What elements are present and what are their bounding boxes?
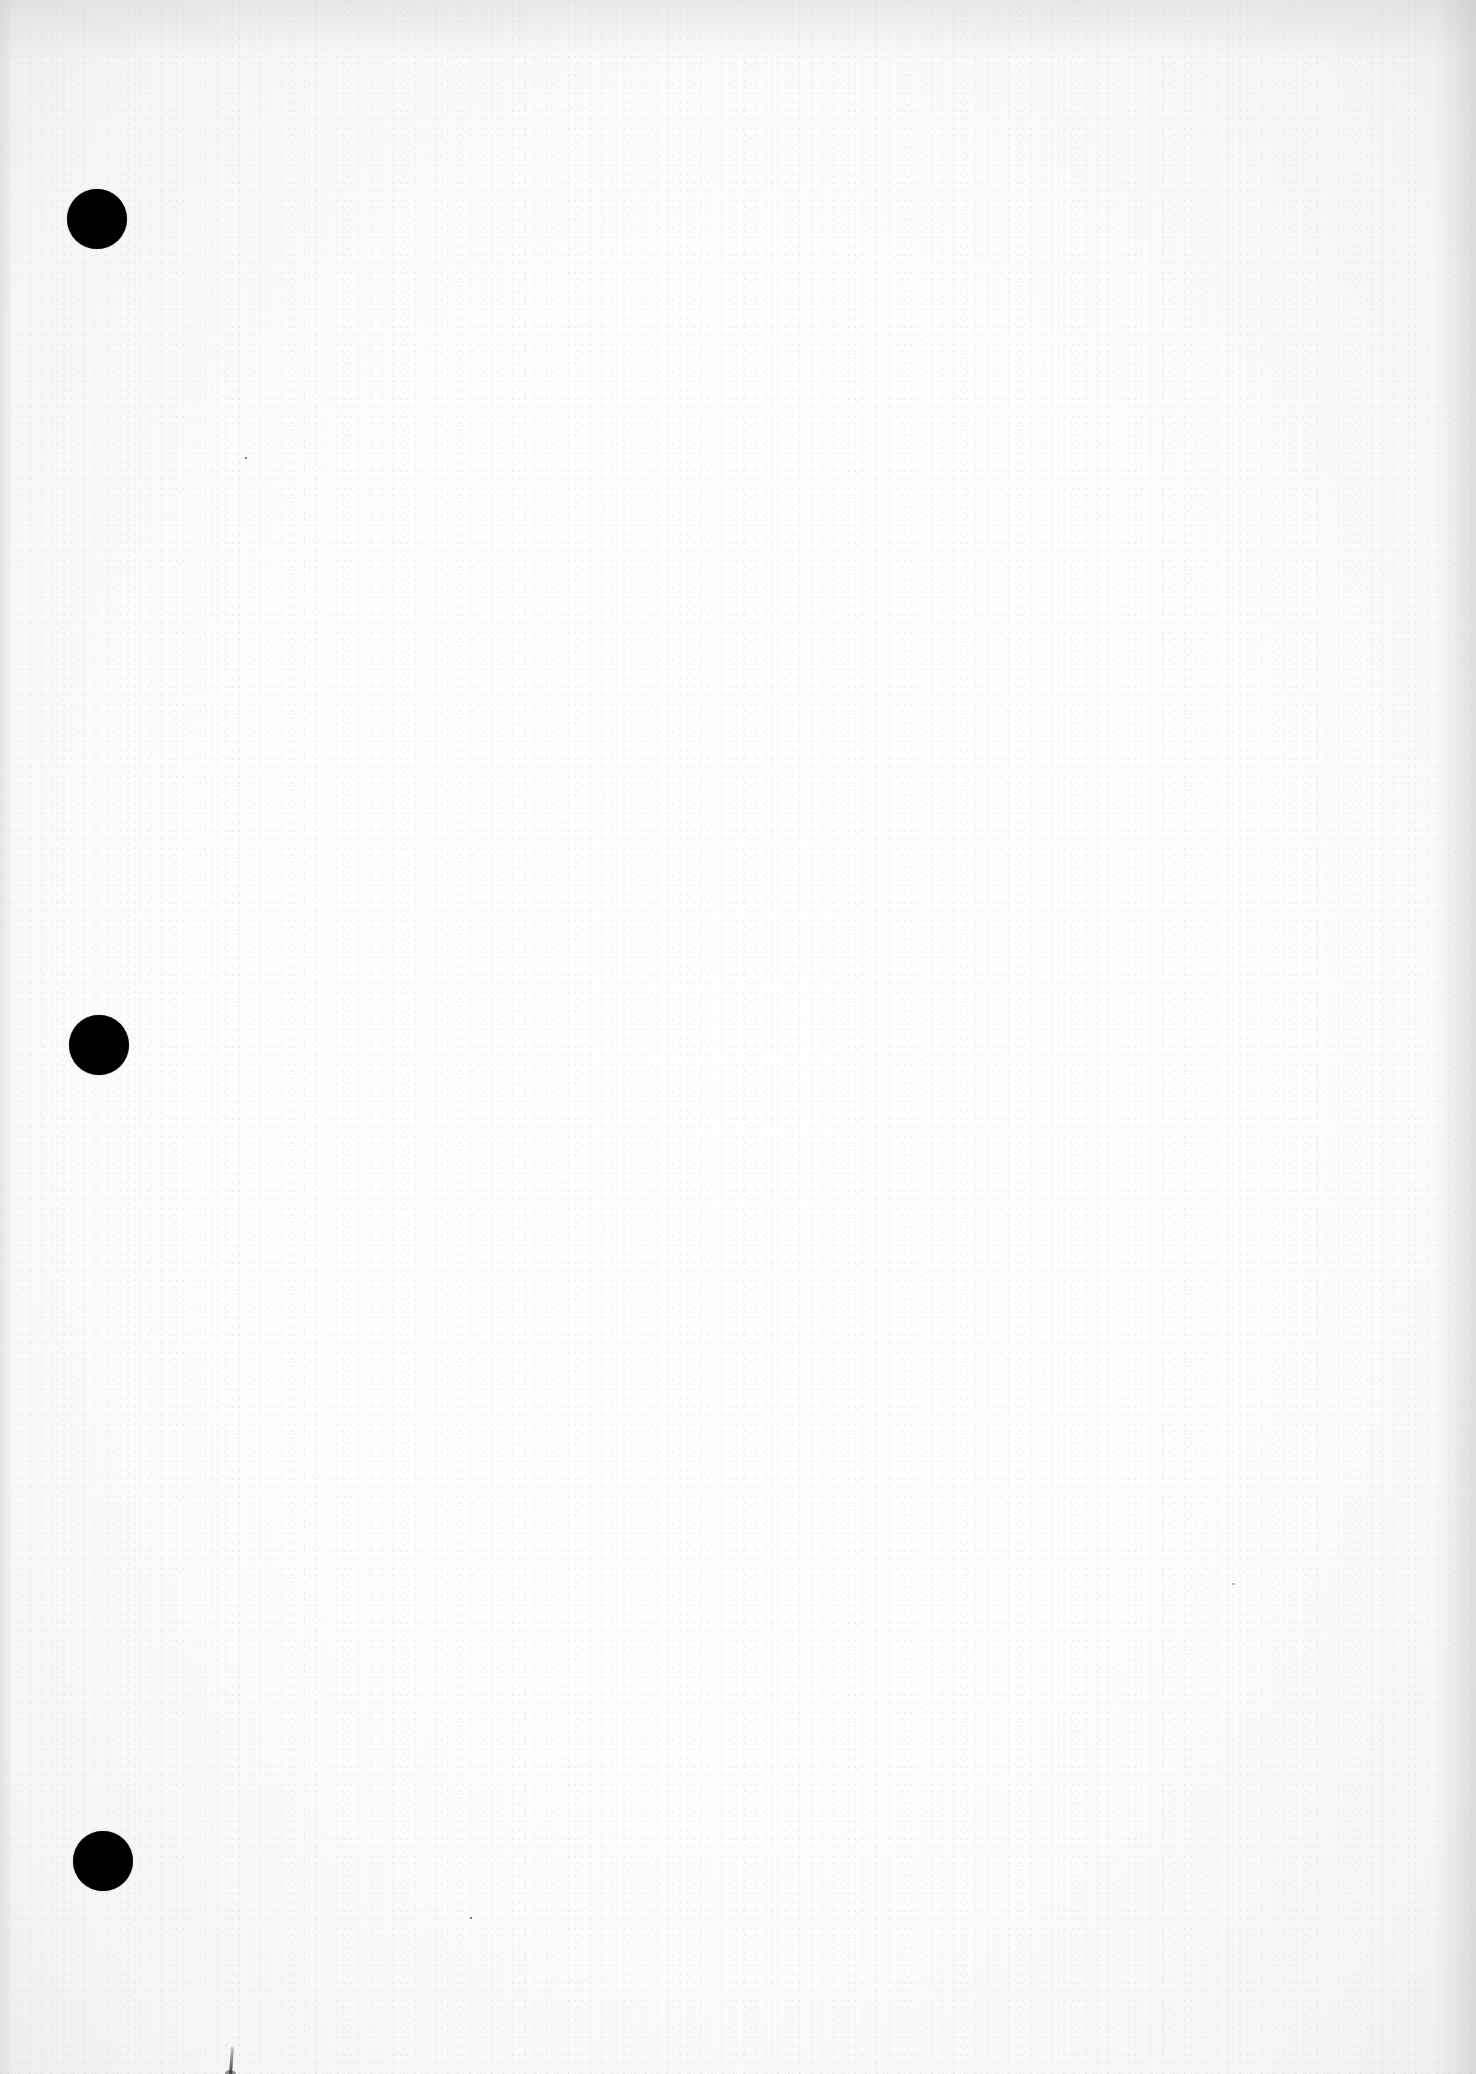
punch-hole-top [67, 189, 127, 249]
dust-speck [1232, 1583, 1235, 1585]
page-edge-right-shadow [1436, 0, 1476, 2074]
page-edge-top-shadow [0, 0, 1476, 60]
page-edge-left-shadow [0, 0, 14, 2074]
scan-artifact-mark [229, 2047, 234, 2074]
dust-speck [470, 1917, 472, 1919]
dust-speck [245, 457, 247, 459]
scanned-blank-page [0, 0, 1476, 2074]
punch-hole-middle [69, 1015, 129, 1075]
punch-hole-bottom [73, 1831, 133, 1891]
paper-texture [0, 0, 1476, 2074]
